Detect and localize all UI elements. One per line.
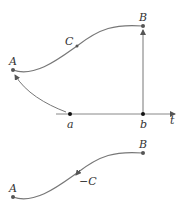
curve-c xyxy=(13,26,143,72)
point-b-bottom xyxy=(141,151,145,155)
label-A-bottom: A xyxy=(8,182,17,195)
label-t: t xyxy=(170,114,175,127)
point-a-top xyxy=(11,68,15,72)
point-b-axis xyxy=(141,112,145,116)
label-a: a xyxy=(67,118,74,131)
label-C: C xyxy=(65,35,74,48)
label-b: b xyxy=(140,118,147,131)
point-a-bottom xyxy=(11,195,15,199)
label-B-top: B xyxy=(138,11,147,24)
point-a-axis xyxy=(68,112,72,116)
curve-neg-c xyxy=(13,153,143,199)
label-neg-C: −C xyxy=(79,175,97,188)
parametric-curve-diagram: A B C a b t A B −C xyxy=(0,0,187,208)
curve-c-direction-marker xyxy=(76,45,79,48)
point-b-top xyxy=(141,24,145,28)
label-A-top: A xyxy=(8,55,17,68)
map-arrow-a-to-A xyxy=(15,75,66,112)
label-B-bottom: B xyxy=(138,138,147,151)
